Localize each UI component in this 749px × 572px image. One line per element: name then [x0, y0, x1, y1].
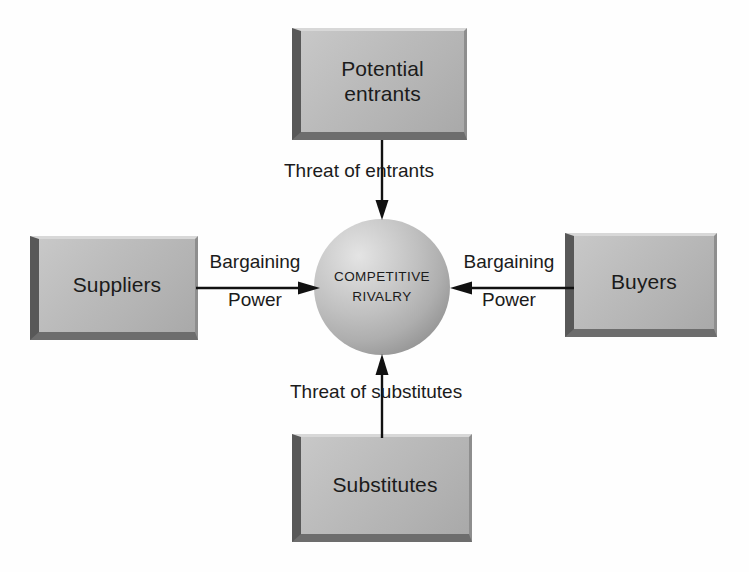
- arrow-label-bargaining-right-bottom: Power: [450, 290, 568, 309]
- arrow-label-bargaining-power-right: Bargaining Power: [450, 252, 568, 309]
- force-label-buyers: Buyers: [611, 270, 677, 295]
- competitive-rivalry-line-2: RIVALRY: [352, 287, 411, 307]
- force-label-potential-entrants: Potential entrants: [341, 57, 424, 107]
- arrow-label-threat-of-substitutes: Threat of substitutes: [290, 381, 462, 403]
- arrow-label-threat-of-entrants: Threat of entrants: [284, 160, 434, 182]
- force-box-suppliers: Suppliers: [30, 236, 198, 340]
- force-label-substitutes: Substitutes: [333, 473, 438, 498]
- arrow-label-bargaining-left-top: Bargaining: [196, 252, 314, 271]
- force-box-potential-entrants: Potential entrants: [292, 28, 467, 140]
- force-box-substitutes: Substitutes: [292, 434, 472, 542]
- force-box-buyers: Buyers: [565, 233, 717, 337]
- competitive-rivalry-sphere: COMPETITIVE RIVALRY: [314, 219, 450, 355]
- arrow-label-bargaining-power-left: Bargaining Power: [196, 252, 314, 309]
- porters-five-forces-diagram: Potential entrants Suppliers Buyers Subs…: [0, 0, 749, 572]
- arrow-label-bargaining-right-top: Bargaining: [450, 252, 568, 271]
- arrow-label-bargaining-left-bottom: Power: [196, 290, 314, 309]
- force-label-suppliers: Suppliers: [73, 273, 161, 298]
- competitive-rivalry-line-1: COMPETITIVE: [334, 267, 430, 287]
